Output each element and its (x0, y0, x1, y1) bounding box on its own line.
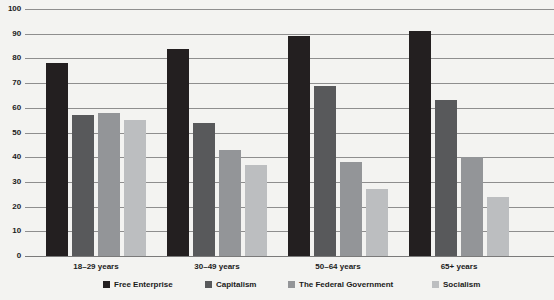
bar (98, 113, 120, 256)
legend-swatch-icon (205, 281, 212, 288)
bar (193, 123, 215, 256)
legend-item[interactable]: The Federal Government (288, 280, 393, 289)
bar-chart: 1009080706050403020100 18–29 years30–49 … (0, 0, 554, 300)
bar-group (288, 6, 388, 256)
legend-item[interactable]: Free Enterprise (103, 280, 173, 289)
legend-label: The Federal Government (299, 280, 393, 289)
bar (124, 120, 146, 256)
bar (219, 150, 241, 256)
category-label: 65+ years (389, 262, 529, 272)
y-axis-tick-label: 30 (0, 178, 21, 186)
y-axis-tick-label: 100 (0, 5, 21, 13)
legend-swatch-icon (288, 281, 295, 288)
bar (461, 157, 483, 256)
bar (72, 115, 94, 256)
category-label: 30–49 years (147, 262, 287, 272)
bar-group (46, 6, 146, 256)
legend-label: Socialism (443, 280, 480, 289)
y-axis-tick-label: 40 (0, 153, 21, 161)
y-axis-tick-label: 10 (0, 227, 21, 235)
chart-legend: Free EnterpriseCapitalismThe Federal Gov… (0, 280, 554, 294)
gridline-0 (25, 256, 554, 257)
bar (340, 162, 362, 256)
category-label: 18–29 years (26, 262, 166, 272)
bar (409, 31, 431, 256)
legend-label: Capitalism (216, 280, 256, 289)
legend-item[interactable]: Socialism (432, 280, 480, 289)
y-axis-tick-label: 90 (0, 30, 21, 38)
bar (288, 36, 310, 256)
legend-swatch-icon (432, 281, 439, 288)
y-axis-tick-label: 80 (0, 54, 21, 62)
y-axis-tick-label: 60 (0, 104, 21, 112)
bar-group (409, 6, 509, 256)
category-label: 50–64 years (268, 262, 408, 272)
bar (435, 100, 457, 256)
legend-label: Free Enterprise (114, 280, 173, 289)
y-axis-tick-label: 70 (0, 79, 21, 87)
legend-swatch-icon (103, 281, 110, 288)
y-axis-tick-label: 0 (0, 252, 21, 260)
y-axis-tick-label: 50 (0, 129, 21, 137)
bar (245, 165, 267, 256)
bar (487, 197, 509, 256)
bar (314, 86, 336, 256)
bar (46, 63, 68, 256)
bar (167, 49, 189, 256)
bar-group (167, 6, 267, 256)
legend-item[interactable]: Capitalism (205, 280, 256, 289)
bar (366, 189, 388, 256)
y-axis-tick-label: 20 (0, 203, 21, 211)
